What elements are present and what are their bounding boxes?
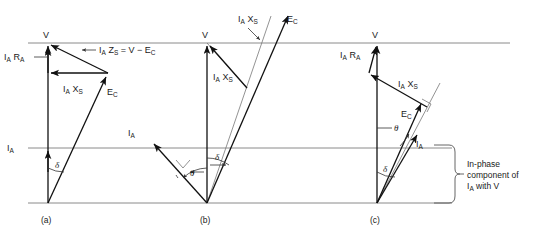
panel-a-current-label: IA bbox=[7, 143, 15, 154]
panel-b-emf-phasor bbox=[207, 16, 288, 203]
panel-a-reactance-drop-label: IA XS bbox=[63, 84, 83, 95]
panel-a-resistance-drop-label: IA RA bbox=[4, 52, 25, 63]
panel-b-theta-label: θ bbox=[190, 168, 195, 178]
panel-a: V IA RA IA XS IA ZS = V − EC EC IA δ (a) bbox=[4, 30, 156, 225]
panel-b-current-label: IA bbox=[128, 128, 136, 139]
panel-a-delta-label: δ bbox=[55, 160, 60, 170]
panel-b-reactance-drop-label-outer: IA XS bbox=[238, 14, 258, 25]
panel-c-voltage-label: V bbox=[372, 30, 378, 40]
panel-b-voltage-label: V bbox=[202, 30, 208, 40]
in-phase-annotation: In-phase component of IA with V bbox=[434, 145, 519, 203]
annotation-line-3: IA with V bbox=[467, 181, 500, 192]
annotation-line-1: In-phase bbox=[467, 159, 500, 169]
curly-brace-icon bbox=[449, 145, 460, 203]
panel-b-emf-label: EC bbox=[287, 14, 298, 25]
panel-b-theta-arc bbox=[176, 175, 178, 178]
panel-b-current-phasor bbox=[154, 144, 207, 203]
panel-c-resistance-drop-phasor bbox=[369, 47, 376, 73]
panel-b-caption: (b) bbox=[200, 215, 211, 225]
panel-b-reactance-drop-label-inner: IA XS bbox=[213, 72, 233, 83]
panel-c: V IA RA IA XS EC IA θ δ (c) bbox=[340, 30, 440, 225]
panel-c-delta-label: δ bbox=[383, 164, 388, 174]
panel-b-right-angle-marker bbox=[176, 160, 190, 168]
panel-c-emf-label: EC bbox=[401, 109, 412, 120]
panel-b-reactance-leader bbox=[248, 28, 260, 40]
panel-b: V IA XS IA XS EC IA θ δ (b) bbox=[128, 14, 298, 225]
panel-a-emf-phasor bbox=[48, 77, 106, 203]
panel-c-resistance-drop-label: IA RA bbox=[340, 50, 361, 61]
panel-c-current-label: IA bbox=[416, 139, 424, 150]
panel-c-theta-label: θ bbox=[394, 123, 399, 133]
panel-b-delta-label: δ bbox=[215, 152, 220, 162]
panel-c-emf-phasor bbox=[377, 104, 421, 203]
panel-b-theta-arc-main bbox=[183, 168, 207, 178]
panel-a-emf-label: EC bbox=[107, 87, 118, 98]
panel-c-caption: (c) bbox=[370, 215, 380, 225]
panel-a-impedance-equation-label: IA ZS = V − EC bbox=[99, 45, 156, 56]
panel-b-construction-line bbox=[207, 16, 271, 203]
panel-a-caption: (a) bbox=[41, 215, 52, 225]
panel-a-voltage-label: V bbox=[43, 30, 49, 40]
panel-c-construction-line bbox=[377, 83, 440, 203]
panel-c-reactance-drop-label: IA XS bbox=[398, 79, 418, 90]
phasor-diagram-svg: V IA RA IA XS IA ZS = V − EC EC IA δ (a) bbox=[0, 0, 538, 237]
annotation-line-2: component of bbox=[467, 170, 519, 180]
reference-axes bbox=[28, 43, 510, 203]
phasor-diagram-figure: V IA RA IA XS IA ZS = V − EC EC IA δ (a) bbox=[0, 0, 538, 237]
